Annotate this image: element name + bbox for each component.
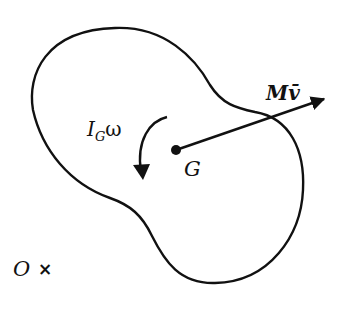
origin-label: O (13, 257, 30, 281)
angular-momentum-arrowhead-icon (133, 164, 150, 180)
linear-momentum-label: Mv̄ (265, 81, 300, 105)
center-of-mass-label: G (184, 157, 201, 181)
origin-marker-icon: × (38, 259, 52, 279)
center-of-mass-dot (171, 145, 181, 155)
rigid-body-diagram: IGω G Mv̄ O × (0, 0, 337, 314)
body-outline (32, 28, 303, 283)
angular-momentum-arrow (140, 117, 167, 172)
angular-momentum-label: IGω (86, 117, 122, 144)
momentum-vector-arrow (176, 99, 324, 150)
